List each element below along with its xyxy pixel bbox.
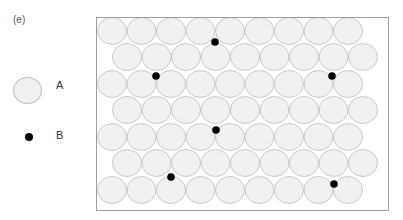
atom-a [201,150,230,177]
atom-a [334,71,363,98]
atom-b [167,173,175,181]
atom-a [113,150,142,177]
atom-a [334,124,363,151]
atom-a [127,71,156,98]
atom-b [212,126,220,134]
atom-a [157,124,186,151]
atom-a [231,97,260,124]
atom-a [98,71,127,98]
atom-a [113,44,142,71]
atom-b [328,72,336,80]
atom-a [142,44,171,71]
atom-a [127,18,156,45]
atom-a [319,44,348,71]
atom-a [245,124,274,151]
atom-a [98,124,127,151]
atom-a [142,97,171,124]
atom-a [98,18,127,45]
atom-a [231,44,260,71]
atom-a [319,97,348,124]
atom-a [260,97,289,124]
atom-a [216,18,245,45]
atom-a [334,18,363,45]
atom-a [275,71,304,98]
atom-a [201,44,230,71]
atom-a [349,44,378,71]
atom-a [275,177,304,204]
atom-a [260,44,289,71]
atom-b [211,38,219,46]
atom-a [113,97,142,124]
atom-a [290,97,319,124]
atom-a [201,97,230,124]
atom-a [142,150,171,177]
atom-a [186,124,215,151]
atom-a [245,177,274,204]
atom-a [275,124,304,151]
atom-a [216,71,245,98]
atom-a [98,177,127,204]
atom-a [245,71,274,98]
atom-a [186,177,215,204]
atom-a [186,18,215,45]
lattice-diagram [0,0,403,220]
atom-a [334,177,363,204]
atom-a [186,71,215,98]
atom-a [172,150,201,177]
atom-a [157,71,186,98]
atom-a [349,150,378,177]
atom-a [349,97,378,124]
atom-a [304,18,333,45]
atom-b [330,180,338,188]
atom-a [127,177,156,204]
atom-a [231,150,260,177]
atom-a [290,44,319,71]
atom-a [290,150,319,177]
atom-a [260,150,289,177]
atom-a [127,124,156,151]
atom-a [172,44,201,71]
atom-a [304,124,333,151]
atom-b [152,72,160,80]
atom-a [157,18,186,45]
atom-a [319,150,348,177]
atom-a [172,97,201,124]
atom-a [304,177,333,204]
atom-a [216,177,245,204]
atom-a [245,18,274,45]
atom-a [275,18,304,45]
atom-a [216,124,245,151]
